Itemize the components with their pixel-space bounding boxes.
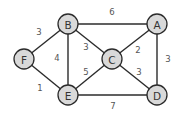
edge-weight-a-d: 3 — [165, 54, 170, 64]
edges-layer — [24, 24, 157, 95]
edge-weight-e-c: 5 — [83, 67, 88, 77]
node-label: D — [153, 90, 161, 102]
node-label: F — [21, 54, 27, 66]
edge-weight-b-a: 6 — [109, 7, 114, 17]
node-e: E — [58, 85, 78, 105]
edge-weight-f-b: 3 — [36, 27, 41, 37]
edge-weight-c-a: 2 — [135, 45, 140, 55]
node-c: C — [102, 49, 122, 69]
node-label: C — [108, 54, 115, 66]
node-d: D — [147, 85, 167, 105]
node-f: F — [14, 49, 34, 69]
edge-weight-c-d: 3 — [136, 67, 141, 77]
node-label: B — [64, 19, 71, 31]
edge-weight-e-d: 7 — [110, 101, 115, 111]
edge-weight-b-c: 3 — [83, 42, 88, 52]
node-label: A — [153, 19, 161, 31]
node-b: B — [58, 14, 78, 34]
edge-weight-f-e: 1 — [37, 83, 42, 93]
node-a: A — [147, 14, 167, 34]
weighted-graph-diagram: 6343235317 ABCDEF — [0, 0, 179, 118]
edge-weight-b-e: 4 — [54, 53, 59, 63]
node-label: E — [65, 90, 72, 102]
